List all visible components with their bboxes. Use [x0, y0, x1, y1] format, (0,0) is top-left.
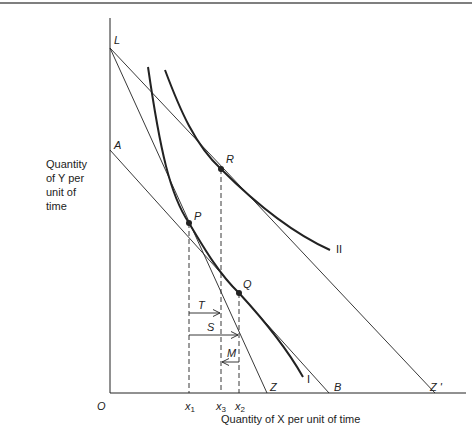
- label-P: P: [194, 211, 201, 222]
- origin-label: O: [97, 401, 106, 412]
- tick-x2: x2: [235, 401, 245, 414]
- label-S: S: [207, 322, 214, 333]
- point-Q: [236, 290, 242, 296]
- label-R: R: [226, 154, 234, 165]
- label-Q: Q: [243, 279, 252, 290]
- label-B: B: [334, 382, 341, 393]
- label-curve-II: II: [336, 244, 342, 255]
- label-Zprime: Z ': [430, 382, 442, 393]
- budget-line-LZprime: [110, 48, 435, 393]
- diagram-canvas: [0, 0, 476, 433]
- label-L: L: [114, 35, 120, 46]
- y-axis-title: Quantity of Y per unit of time: [46, 157, 87, 213]
- label-curve-I: I: [307, 374, 310, 385]
- tick-x1: x1: [185, 401, 195, 414]
- point-P: [186, 220, 192, 226]
- point-R: [218, 166, 224, 172]
- x-axis-title: Quantity of X per unit of time: [221, 412, 360, 426]
- tick-x3: x3: [216, 401, 226, 414]
- label-M: M: [227, 348, 236, 359]
- label-A: A: [114, 140, 121, 151]
- label-T: T: [198, 300, 205, 311]
- label-Z: Z: [270, 382, 277, 393]
